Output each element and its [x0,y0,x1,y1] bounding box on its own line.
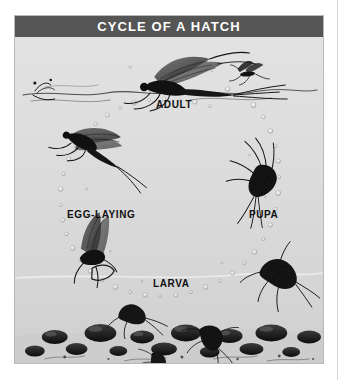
stage-label-pupa: PUPA [249,209,278,220]
illustration-panel: CYCLE OF A HATCH [14,15,324,364]
flying-insect-icon [230,61,270,85]
adult-mayfly-icon [124,52,287,111]
water-surface-icon [33,79,55,100]
page-gutter-rule [337,0,338,380]
emerging-mayfly-icon [55,210,131,295]
figure-root: CYCLE OF A HATCH [0,0,349,380]
figure-title: CYCLE OF A HATCH [15,16,323,37]
nymph-icon [239,235,323,331]
stage-label-adult: ADULT [156,99,192,110]
stage-label-egg-laying: EGG-LAYING [67,209,135,220]
stage-label-larva: LARVA [153,278,190,289]
life-cycle-scene: ADULT EGG-LAYING PUPA LARVA [15,37,323,364]
egg-laying-mayfly-icon [44,114,159,194]
riverbed-icon [15,298,323,364]
life-cycle-drawing [15,37,323,364]
